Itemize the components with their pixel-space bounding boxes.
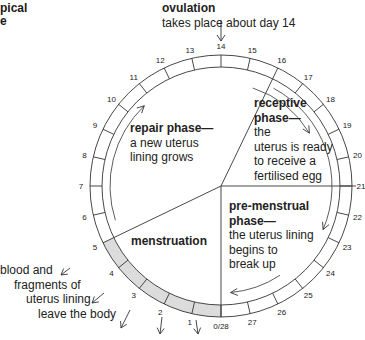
repair-phase-text: lining grows [130, 150, 213, 165]
day-label: 22 [353, 213, 362, 222]
day-label: 20 [353, 151, 362, 160]
day-label: 5 [93, 243, 98, 252]
day-tick [314, 260, 323, 267]
receptive-phase-text: to receive a [254, 154, 333, 169]
receptive-phase-heading: receptive [254, 96, 333, 111]
phase-divider [114, 186, 221, 238]
receptive-phase-label: receptive phase— the uterus is ready to … [254, 96, 333, 183]
day-label: 8 [82, 151, 87, 160]
day-label: 13 [185, 46, 194, 55]
day-label: 23 [343, 243, 352, 252]
day-tick [328, 238, 339, 243]
day-tick [103, 129, 114, 134]
day-tick [273, 68, 278, 79]
repair-phase-text: a new uterus [130, 136, 213, 151]
outflow-note-line: fragments of [0, 278, 110, 293]
ovulation-text: takes place about day 14 [162, 16, 295, 31]
day-tick [247, 302, 250, 314]
day-label: 1 [188, 318, 193, 327]
day-label: 26 [277, 308, 286, 317]
day-label: 17 [304, 73, 313, 82]
menstruation-arrow [231, 275, 280, 292]
premenstrual-phase-heading: phase— [229, 214, 314, 229]
day-label: 27 [248, 318, 257, 327]
premenstrual-phase-text: the uterus lining [229, 228, 314, 243]
ovulation-label: ovulation takes place about day 14 [162, 1, 295, 30]
day-label: 24 [326, 269, 335, 278]
day-tick [164, 68, 169, 79]
day-label: 0/28 [213, 322, 229, 331]
receptive-phase-text: fertilised egg [254, 169, 333, 184]
day-label: 21 [357, 182, 365, 191]
outflow-note-line: leave the body [0, 307, 110, 322]
day-tick [192, 58, 195, 70]
repair-phase-label: repair phase— a new uterus lining grows [130, 121, 213, 165]
receptive-phase-text: the [254, 125, 333, 140]
ovulation-heading: ovulation [162, 1, 295, 16]
premenstrual-phase-text: break up [229, 257, 314, 272]
day-label: 7 [79, 182, 84, 191]
day-tick [295, 279, 302, 288]
day-tick [139, 84, 146, 93]
day-tick [337, 212, 349, 215]
day-tick [273, 293, 278, 304]
day-label: 2 [158, 308, 163, 317]
day-tick [337, 157, 349, 160]
day-label: 9 [93, 121, 98, 130]
day-tick [119, 104, 128, 111]
outflow-note-line: blood and [0, 263, 110, 278]
menstruation-label: menstruation [131, 234, 207, 249]
day-label: 10 [107, 95, 116, 104]
day-tick [295, 84, 302, 93]
day-label: 11 [130, 73, 139, 82]
day-tick [247, 58, 250, 70]
day-label: 19 [343, 121, 352, 130]
receptive-phase-heading: phase— [254, 111, 333, 126]
premenstrual-phase-heading: pre-menstrual [229, 199, 314, 214]
day-tick [93, 212, 105, 215]
day-label: 6 [82, 213, 87, 222]
repair-phase-heading: repair phase— [130, 121, 213, 136]
premenstrual-phase-text: begins to [229, 243, 314, 258]
day-label: 12 [156, 56, 165, 65]
day-tick [93, 157, 105, 160]
outflow-note: blood and fragments of uterus lining lea… [0, 263, 110, 321]
day-label: 14 [217, 42, 226, 51]
day-label: 25 [304, 291, 313, 300]
day-label: 3 [131, 291, 136, 300]
day-label: 15 [248, 46, 257, 55]
receptive-phase-text: uterus is ready [254, 140, 333, 155]
premenstrual-phase-label: pre-menstrual phase— the uterus lining b… [229, 199, 314, 272]
day-label: 16 [277, 56, 286, 65]
day-label: 4 [109, 269, 114, 278]
outflow-note-line: uterus lining [0, 292, 110, 307]
